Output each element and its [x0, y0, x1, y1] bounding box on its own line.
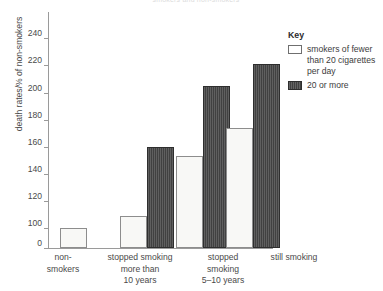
- y-tick: 120: [48, 201, 49, 202]
- y-tick: 160: [48, 147, 49, 148]
- y-tick: 220: [48, 65, 49, 66]
- x-category-label-line: non-: [34, 252, 92, 264]
- bar-dark: [253, 64, 280, 248]
- y-tick-mark: [44, 228, 49, 229]
- y-tick-mark: [44, 93, 49, 94]
- y-tick-mark: [44, 65, 49, 66]
- bar-light: [226, 128, 253, 248]
- chart-figure: smokers and non-smokers death rates/% of…: [0, 0, 383, 291]
- x-axis-line: [48, 248, 273, 249]
- y-tick-mark: [44, 120, 49, 121]
- y-tick-label: 140: [0, 169, 42, 170]
- x-category-label-line: smokers: [34, 264, 92, 276]
- y-tick-label: 200: [0, 88, 42, 89]
- x-category-label-line: 10 years: [92, 275, 188, 287]
- y-tick: 100: [48, 228, 49, 229]
- y-tick: 240: [48, 38, 49, 39]
- dark-hatched-swatch-icon: [288, 81, 302, 90]
- light-swatch-icon: [288, 45, 302, 54]
- x-category-label-line: more than: [92, 264, 188, 276]
- x-category-label-line: stopped: [188, 252, 258, 264]
- plot-area: 0100120140160180200220240: [48, 12, 273, 249]
- chart-title: smokers and non-smokers: [106, 0, 286, 4]
- y-tick-label: 100: [0, 223, 42, 224]
- bar-dark: [147, 147, 174, 248]
- x-category-label-line: stopped smoking: [92, 252, 188, 264]
- legend-title: Key: [288, 30, 383, 40]
- legend: Key smokers of fewer than 20 cigarettes …: [288, 30, 383, 94]
- y-tick-label: 0: [0, 243, 42, 244]
- y-tick-label: 180: [0, 115, 42, 116]
- y-tick: 200: [48, 93, 49, 94]
- x-category-label: stoppedsmoking5–10 years: [188, 252, 258, 287]
- y-tick-mark: [44, 201, 49, 202]
- x-category-label: stopped smokingmore than10 years: [92, 252, 188, 287]
- y-tick-label: 220: [0, 60, 42, 61]
- y-tick-mark: [44, 38, 49, 39]
- y-tick-mark: [44, 174, 49, 175]
- y-tick-mark: [44, 248, 49, 249]
- legend-item-label: smokers of fewer than 20 cigarettes per …: [307, 44, 383, 77]
- y-axis-line: [48, 12, 49, 249]
- y-tick: 140: [48, 174, 49, 175]
- y-axis-title: death rates/% of non-smokers: [14, 0, 24, 154]
- y-tick: 0: [48, 248, 49, 249]
- y-tick-label: 120: [0, 196, 42, 197]
- legend-item-dark: 20 or more: [288, 80, 383, 91]
- y-tick-label: 240: [0, 33, 42, 34]
- legend-item-label: 20 or more: [307, 80, 383, 91]
- y-tick-label: 160: [0, 142, 42, 143]
- x-category-label: still smoking: [258, 252, 330, 264]
- y-tick-mark: [44, 147, 49, 148]
- y-tick: 180: [48, 120, 49, 121]
- bar-light: [120, 216, 147, 248]
- x-category-label-line: 5–10 years: [188, 275, 258, 287]
- x-category-label: non-smokers: [34, 252, 92, 275]
- x-category-label-line: still smoking: [258, 252, 330, 264]
- x-axis-category-labels: non-smokersstopped smokingmore than10 ye…: [34, 252, 324, 291]
- x-category-label-line: smoking: [188, 264, 258, 276]
- bar-light: [176, 156, 203, 248]
- bar-light: [60, 228, 87, 248]
- legend-item-light: smokers of fewer than 20 cigarettes per …: [288, 44, 383, 77]
